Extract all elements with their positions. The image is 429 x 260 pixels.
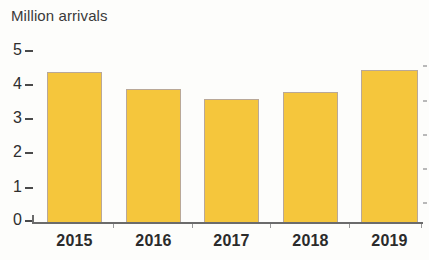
x-axis-minor-tick (113, 224, 114, 228)
x-axis-minor-tick (192, 224, 193, 228)
bar-2019[interactable] (361, 70, 418, 222)
x-axis-label-2018: 2018 (283, 232, 338, 250)
x-axis-label-2015: 2015 (47, 232, 102, 250)
bar-2017[interactable] (204, 99, 259, 222)
bars-layer (0, 0, 429, 222)
x-axis-minor-tick (349, 224, 350, 228)
bar-2015[interactable] (47, 72, 102, 222)
bar-2016[interactable] (126, 89, 181, 222)
x-axis-line (32, 222, 423, 224)
x-axis-label-2019: 2019 (361, 232, 418, 250)
x-axis-minor-tick (270, 224, 271, 228)
x-axis-label-2017: 2017 (204, 232, 259, 250)
bar-2018[interactable] (283, 92, 338, 222)
x-axis-minor-tick (421, 224, 422, 228)
plot-area: 5 4 3 2 1 0 (0, 0, 429, 232)
bar-chart: Million arrivals 5 4 3 2 1 0 (0, 0, 429, 260)
x-axis-label-2016: 2016 (126, 232, 181, 250)
